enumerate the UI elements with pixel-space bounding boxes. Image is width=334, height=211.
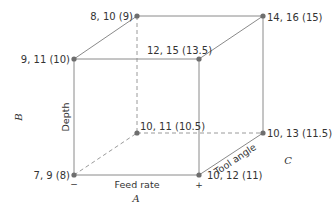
axis-label-feed-rate: Feed rate <box>115 179 160 190</box>
factor-label-c: C <box>284 155 292 166</box>
vertex-back-top-left <box>134 13 139 18</box>
edge-bottom-left-depth <box>74 133 137 175</box>
vertex-front-bottom-right <box>196 172 201 177</box>
vertex-label-back-bottom-left: 10, 11 (10.5) <box>140 121 205 132</box>
vertex-front-top-right <box>196 56 201 61</box>
vertex-label-back-top-right: 14, 16 (15) <box>267 12 323 23</box>
cube-plot-diagram: 7, 9 (8) 10, 12 (11) 9, 11 (10) 12, 15 (… <box>0 0 334 211</box>
high-level-sign: + <box>195 180 203 190</box>
low-level-sign: − <box>70 179 78 189</box>
vertex-label-back-top-left: 8, 10 (9) <box>90 11 133 22</box>
axis-label-depth: Depth <box>60 103 71 132</box>
vertex-label-back-bottom-right: 10, 13 (11.5) <box>267 128 332 139</box>
factor-label-b: B <box>13 113 24 121</box>
vertex-front-top-left <box>71 56 76 61</box>
factor-label-a: A <box>131 193 139 204</box>
visible-edges <box>74 16 263 175</box>
vertex-back-top-right <box>260 13 265 18</box>
vertex-label-front-top-left: 9, 11 (10) <box>21 54 70 65</box>
vertex-label-front-top-right: 12, 15 (13.5) <box>147 45 212 56</box>
vertex-back-bottom-left <box>134 130 139 135</box>
edge-top-left-depth <box>74 16 137 59</box>
vertex-label-front-bottom-left: 7, 9 (8) <box>34 170 71 181</box>
vertex-back-bottom-right <box>260 130 265 135</box>
vertex-front-bottom-left <box>71 172 76 177</box>
